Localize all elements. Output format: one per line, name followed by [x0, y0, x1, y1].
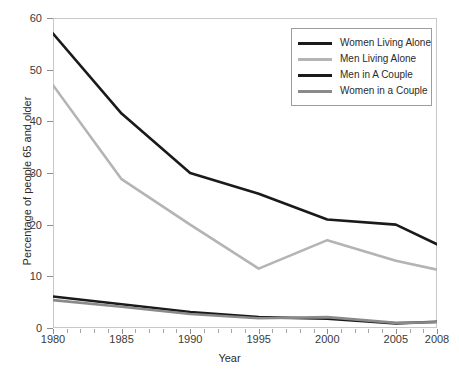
- x-tick-mark-minor: [135, 329, 136, 333]
- x-tick-mark-minor: [149, 329, 150, 333]
- y-tick-label: 60: [2, 12, 42, 24]
- x-tick-mark-minor: [368, 329, 369, 333]
- x-axis-title: Year: [0, 352, 459, 364]
- legend-item-label: Women Living Alone: [340, 37, 431, 49]
- x-tick-mark-minor: [67, 329, 68, 333]
- legend-item-label: Men Living Alone: [340, 53, 416, 65]
- legend-color-swatch: [298, 58, 332, 61]
- series-line: [53, 85, 437, 269]
- legend-item-label: Women in a Couple: [340, 85, 428, 97]
- legend-item[interactable]: Men in A Couple: [298, 67, 424, 83]
- chart-legend: Women Living AloneMen Living AloneMen in…: [291, 28, 432, 106]
- legend-color-swatch: [298, 74, 332, 77]
- y-tick-mark: [47, 121, 53, 122]
- legend-item-label: Men in A Couple: [340, 69, 413, 81]
- legend-color-swatch: [298, 42, 332, 45]
- x-tick-label: 1995: [246, 333, 270, 345]
- x-tick-label: 2008: [425, 333, 449, 345]
- y-tick-mark: [47, 70, 53, 71]
- x-tick-mark-minor: [272, 329, 273, 333]
- y-tick-mark: [47, 276, 53, 277]
- legend-item[interactable]: Women Living Alone: [298, 35, 424, 51]
- x-tick-mark-minor: [218, 329, 219, 333]
- x-tick-mark-minor: [410, 329, 411, 333]
- legend-item[interactable]: Men Living Alone: [298, 51, 424, 67]
- legend-item[interactable]: Women in a Couple: [298, 83, 424, 99]
- x-tick-mark-minor: [204, 329, 205, 333]
- line-chart: 0102030405060 Percentage of people 65 an…: [0, 0, 459, 373]
- x-tick-label: 2005: [384, 333, 408, 345]
- x-tick-mark-minor: [80, 329, 81, 333]
- y-tick-mark: [47, 173, 53, 174]
- y-tick-mark: [47, 225, 53, 226]
- series-line: [53, 296, 437, 323]
- x-tick-label: 1985: [109, 333, 133, 345]
- x-tick-label: 1990: [178, 333, 202, 345]
- legend-color-swatch: [298, 90, 332, 93]
- x-tick-mark-minor: [355, 329, 356, 333]
- x-tick-mark-minor: [94, 329, 95, 333]
- x-tick-mark-minor: [163, 329, 164, 333]
- x-tick-mark-minor: [300, 329, 301, 333]
- x-tick-label: 1980: [41, 333, 65, 345]
- x-tick-label: 2000: [315, 333, 339, 345]
- y-axis-title: Percentage of people 65 and older: [21, 51, 33, 311]
- y-tick-label: 0: [2, 322, 42, 334]
- x-tick-mark-minor: [231, 329, 232, 333]
- x-tick-mark-minor: [341, 329, 342, 333]
- x-tick-mark-minor: [286, 329, 287, 333]
- y-tick-mark: [47, 18, 53, 19]
